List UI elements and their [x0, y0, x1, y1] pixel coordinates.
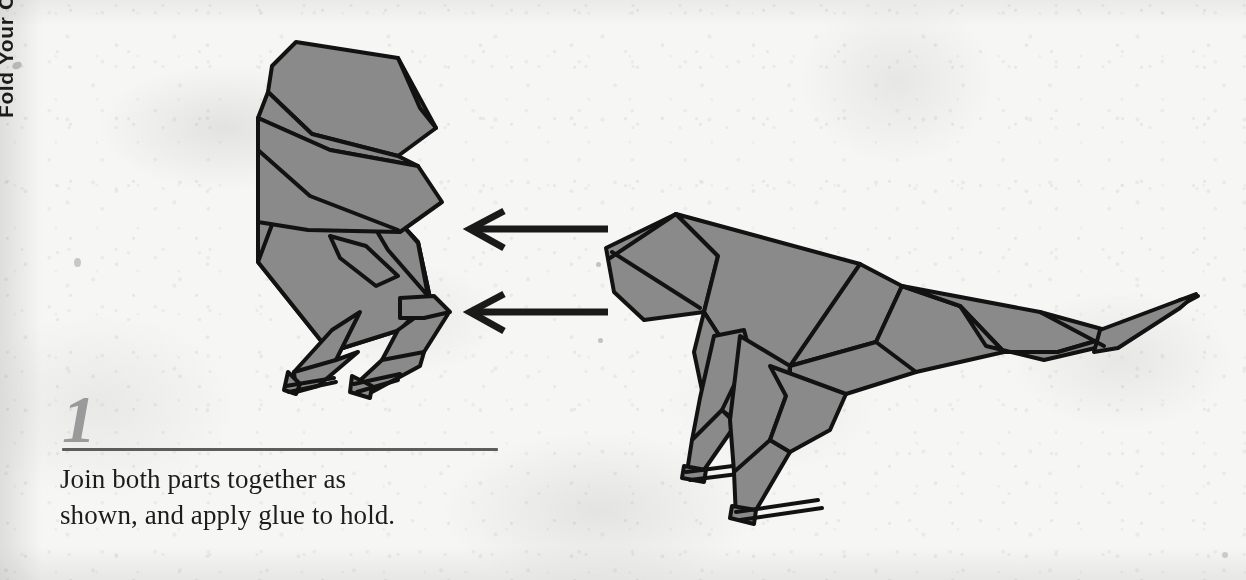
- left-part-hip-panel: [400, 296, 450, 318]
- step-caption: Join both parts together as shown, and a…: [60, 462, 480, 533]
- assembly-arrows: [470, 211, 608, 331]
- step-number: 1: [62, 385, 96, 453]
- origami-instruction-page: Fold Your Own Dinosaur: [0, 0, 1246, 580]
- step-caption-line-1: Join both parts together as: [60, 462, 480, 498]
- right-part-tail-tip: [1094, 294, 1196, 352]
- step-caption-line-2: shown, and apply glue to hold.: [60, 498, 480, 534]
- step-divider-rule: [62, 448, 498, 451]
- left-origami-part: [258, 42, 450, 398]
- right-origami-part: [606, 214, 1198, 524]
